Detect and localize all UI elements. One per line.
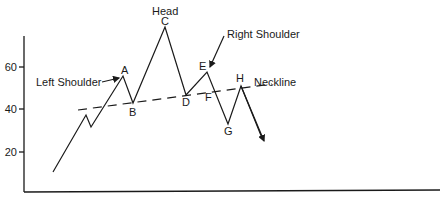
y-tick-40: 40 bbox=[5, 103, 17, 115]
y-tick-60: 60 bbox=[5, 61, 17, 73]
y-tick-20: 20 bbox=[5, 146, 17, 158]
label-a: A bbox=[121, 64, 129, 76]
neckline bbox=[78, 84, 272, 110]
label-neckline: Neckline bbox=[254, 76, 296, 88]
label-g: G bbox=[224, 125, 233, 137]
head-and-shoulders-chart: 60 40 20 Head C Left Shoulder A B D E F … bbox=[0, 0, 440, 199]
label-h: H bbox=[236, 72, 244, 84]
right-shoulder-pointer bbox=[210, 36, 224, 67]
label-e: E bbox=[199, 60, 206, 72]
label-right-shoulder: Right Shoulder bbox=[227, 28, 300, 40]
label-c: C bbox=[161, 15, 169, 27]
left-shoulder-pointer bbox=[102, 78, 119, 82]
label-left-shoulder: Left Shoulder bbox=[36, 76, 102, 88]
y-ticks: 60 40 20 bbox=[5, 61, 24, 158]
label-b: B bbox=[129, 106, 136, 118]
breakdown-arrow bbox=[241, 86, 264, 141]
x-axis bbox=[24, 190, 440, 192]
label-f: F bbox=[205, 91, 212, 103]
label-d: D bbox=[182, 96, 190, 108]
